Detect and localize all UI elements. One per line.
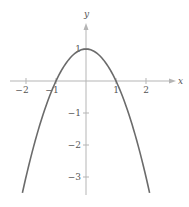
parabola-plot: −2−1121−1−2−3 x y: [0, 0, 189, 207]
y-axis-label: y: [83, 9, 90, 19]
y-axis-arrow-icon: [84, 23, 89, 30]
y-tick-label: −3: [68, 172, 82, 182]
x-axis-arrow-icon: [169, 79, 176, 84]
x-tick-label: 2: [143, 85, 149, 95]
y-tick-label: −1: [68, 108, 81, 118]
y-tick-label: −2: [68, 140, 81, 150]
axes: [10, 23, 176, 195]
x-tick-label: −2: [15, 85, 28, 95]
x-axis-label: x: [178, 76, 183, 86]
